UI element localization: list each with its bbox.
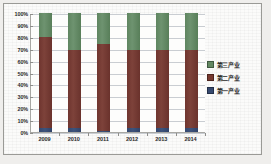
gridline [31,121,205,122]
bar-segment [68,128,81,132]
legend-swatch-icon [207,74,214,81]
bar-segment [127,13,140,50]
y-axis-tick-mark [30,97,33,98]
y-axis-tick-mark [30,50,33,51]
bar-segment [127,50,140,129]
x-axis-tick-mark [118,133,119,136]
legend-label: 第一产业 [217,86,240,95]
bar-segment [97,44,110,131]
gridline [31,26,205,27]
chart-screenshot: 0%10%20%30%40%50%60%70%80%90%100% 200920… [0,0,271,164]
y-axis-tick-mark [30,74,33,75]
gridline [31,74,205,75]
gridline [31,14,205,15]
bar-segment [97,13,110,44]
bar-segment [68,50,81,129]
bar-segment [68,13,81,50]
y-axis-tick-label: 90% [0,23,28,29]
y-axis: 0%10%20%30%40%50%60%70%80%90%100% [0,14,28,133]
bar-segment [185,50,198,129]
x-axis-tick-mark [205,133,206,136]
chart-legend: 第三产业第二产业第一产业 [207,58,259,97]
bar-column [97,13,110,132]
y-axis-tick-label: 10% [0,118,28,124]
x-axis-tick-mark [88,133,89,136]
legend-label: 第二产业 [217,73,240,82]
x-axis-tick-label: 2014 [175,136,205,142]
bar-segment [127,128,140,132]
bar-column [68,13,81,132]
legend-swatch-icon [207,61,214,68]
bar-segment [39,37,52,129]
bar-column [39,13,52,132]
x-axis-tick-mark [147,133,148,136]
y-axis-tick-label: 40% [0,82,28,88]
bar-segment [39,128,52,132]
x-axis-tick-label: 2009 [30,136,60,142]
legend-swatch-icon [207,87,214,94]
gridline [31,85,205,86]
y-axis-tick-label: 20% [0,106,28,112]
legend-item[interactable]: 第三产业 [207,58,259,71]
x-axis-tick-label: 2010 [59,136,89,142]
y-axis-tick-mark [30,38,33,39]
gridline [31,62,205,63]
x-axis-tick-label: 2012 [117,136,147,142]
bar-column [156,13,169,132]
y-axis-tick-mark [30,14,33,15]
legend-item[interactable]: 第一产业 [207,84,259,97]
bar-segment [185,128,198,132]
x-axis: 200920102011201220132014 [30,136,205,148]
x-axis-tick-mark [59,133,60,136]
y-axis-tick-label: 50% [0,71,28,77]
y-axis-tick-label: 0% [0,130,28,136]
bar-segment [39,13,52,37]
bar-column [185,13,198,132]
y-axis-tick-label: 100% [0,11,28,17]
gridline [31,97,205,98]
gridline [31,50,205,51]
bar-segment [185,13,198,50]
bar-segment [156,128,169,132]
gridline [31,109,205,110]
y-axis-tick-mark [30,133,33,134]
x-axis-tick-label: 2011 [88,136,118,142]
y-axis-tick-mark [30,26,33,27]
x-axis-tick-label: 2013 [146,136,176,142]
y-axis-tick-label: 70% [0,47,28,53]
y-axis-tick-mark [30,121,33,122]
bar-segment [97,131,110,132]
bar-segment [156,50,169,129]
y-axis-tick-mark [30,85,33,86]
y-axis-tick-label: 80% [0,35,28,41]
x-axis-tick-mark [176,133,177,136]
y-axis-tick-mark [30,109,33,110]
y-axis-tick-mark [30,62,33,63]
bar-segment [156,13,169,50]
y-axis-tick-label: 60% [0,59,28,65]
legend-label: 第三产业 [217,60,240,69]
bar-column [127,13,140,132]
y-axis-tick-label: 30% [0,94,28,100]
gridline [31,38,205,39]
legend-item[interactable]: 第二产业 [207,71,259,84]
plot-area [30,14,205,133]
